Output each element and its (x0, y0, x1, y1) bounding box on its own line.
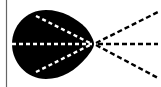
black-blob-shape (12, 10, 94, 79)
lower-ray (96, 45, 158, 78)
diagram-canvas (0, 0, 161, 87)
diagram-svg (0, 0, 161, 87)
outer-rays (96, 12, 158, 78)
upper-ray (96, 12, 158, 43)
